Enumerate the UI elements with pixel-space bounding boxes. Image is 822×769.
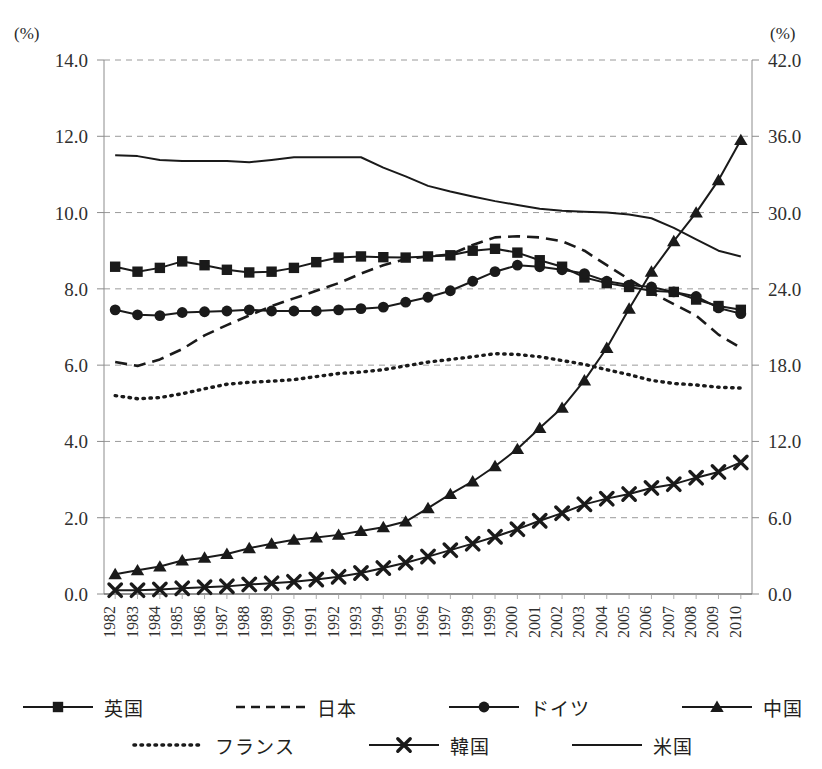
- right-axis-ticks: 0.06.012.018.024.030.036.042.0: [752, 50, 801, 605]
- legend-label: 英国: [104, 694, 144, 721]
- legend-line-sample-triangle: [678, 696, 756, 718]
- right-tick-label: 0.0: [768, 584, 792, 605]
- x-tick-label: 2003: [570, 606, 587, 638]
- legend-line-sample-square: [19, 696, 97, 718]
- x-tick-label: 2006: [637, 606, 654, 638]
- bottom-caption-strip: [0, 764, 822, 769]
- x-tick-label: 2000: [503, 606, 520, 638]
- legend-label: フランス: [215, 732, 295, 759]
- chart-page: (%) (%) 0.02.04.06.08.010.012.014.0 0.06…: [0, 0, 822, 769]
- x-tick-label: 2010: [727, 606, 744, 638]
- x-axis-ticks: 1982198319841985198619871988198919901991…: [101, 594, 744, 638]
- x-tick-label: 1999: [481, 606, 498, 638]
- legend-item-germany[interactable]: ドイツ: [445, 694, 590, 721]
- series-中国: [108, 134, 747, 579]
- left-tick-label: 4.0: [64, 431, 88, 452]
- x-tick-label: 1982: [101, 606, 118, 638]
- x-tick-label: 1997: [436, 606, 453, 638]
- right-tick-label: 6.0: [768, 508, 792, 529]
- x-tick-label: 1993: [347, 606, 364, 638]
- x-tick-label: 1985: [168, 606, 185, 638]
- x-tick-label: 2004: [593, 606, 610, 638]
- legend-line-sample-none: [568, 734, 646, 756]
- legend-label: 韓国: [450, 732, 490, 759]
- x-tick-label: 2007: [660, 606, 677, 638]
- legend-label: 米国: [653, 732, 693, 759]
- x-tick-label: 1992: [325, 606, 342, 638]
- legend-label: ドイツ: [530, 694, 590, 721]
- legend-line-sample-circle: [445, 696, 523, 718]
- legend-item-uk[interactable]: 英国: [19, 694, 144, 721]
- left-tick-label: 10.0: [55, 203, 88, 224]
- x-tick-label: 2009: [704, 606, 721, 638]
- x-tick-label: 1984: [146, 606, 163, 638]
- right-tick-label: 12.0: [768, 431, 801, 452]
- series-韓国: [109, 456, 747, 596]
- legend-item-france[interactable]: フランス: [130, 732, 295, 759]
- series-フランス: [115, 354, 741, 399]
- line-chart: 0.02.04.06.08.010.012.014.0 0.06.012.018…: [0, 0, 822, 688]
- right-tick-label: 18.0: [768, 355, 801, 376]
- right-tick-label: 42.0: [768, 50, 801, 71]
- x-tick-label: 1998: [459, 606, 476, 638]
- legend-label: 日本: [317, 694, 357, 721]
- legend-item-china[interactable]: 中国: [678, 694, 803, 721]
- left-axis-ticks: 0.02.04.06.08.010.012.014.0: [55, 50, 104, 605]
- x-tick-label: 1996: [414, 606, 431, 638]
- x-tick-label: 1991: [302, 606, 319, 638]
- x-tick-label: 1994: [369, 606, 386, 638]
- left-tick-label: 2.0: [64, 508, 88, 529]
- chart-legend: 英国日本ドイツ中国フランス韓国米国: [0, 688, 822, 764]
- legend-item-korea[interactable]: 韓国: [365, 732, 490, 759]
- legend-item-usa[interactable]: 米国: [568, 732, 693, 759]
- right-tick-label: 36.0: [768, 126, 801, 147]
- left-tick-label: 0.0: [64, 584, 88, 605]
- x-tick-label: 2001: [526, 606, 543, 638]
- legend-label: 中国: [763, 694, 803, 721]
- right-tick-label: 24.0: [768, 279, 801, 300]
- x-tick-label: 1989: [258, 606, 275, 638]
- legend-row-2: フランス韓国米国: [0, 726, 822, 764]
- legend-line-sample-cross: [365, 734, 443, 756]
- x-tick-label: 2005: [615, 606, 632, 638]
- left-tick-label: 6.0: [64, 355, 88, 376]
- x-tick-label: 1995: [392, 606, 409, 638]
- left-tick-label: 14.0: [55, 50, 88, 71]
- x-tick-label: 1983: [124, 606, 141, 638]
- x-tick-label: 1987: [213, 606, 230, 638]
- legend-row-1: 英国日本ドイツ中国: [0, 688, 822, 726]
- series-米国: [115, 155, 741, 256]
- x-tick-label: 2008: [682, 606, 699, 638]
- right-tick-label: 30.0: [768, 203, 801, 224]
- x-tick-label: 1986: [191, 606, 208, 638]
- x-tick-label: 1988: [235, 606, 252, 638]
- legend-line-sample-none: [232, 696, 310, 718]
- left-tick-label: 8.0: [64, 279, 88, 300]
- x-tick-label: 2002: [548, 606, 565, 638]
- series-英国: [110, 244, 746, 315]
- plot-frame: [104, 60, 752, 594]
- left-tick-label: 12.0: [55, 126, 88, 147]
- legend-item-japan[interactable]: 日本: [232, 694, 357, 721]
- x-tick-label: 1990: [280, 606, 297, 638]
- legend-line-sample-none: [130, 734, 208, 756]
